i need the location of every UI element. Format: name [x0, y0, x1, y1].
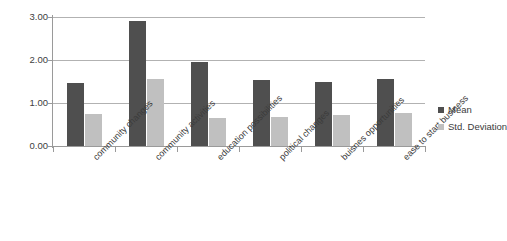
bar-group	[377, 17, 412, 146]
gridline-3.00	[53, 17, 425, 18]
x-tick-mark	[239, 147, 240, 152]
bar-std-deviation[interactable]	[85, 114, 102, 146]
gridline-2.00	[53, 60, 425, 61]
x-tick-mark	[301, 147, 302, 152]
y-tick-label-2.00: 2.00	[4, 55, 48, 65]
legend-label-std-deviation: Std. Deviation	[448, 121, 507, 132]
y-tick-mark-1.00	[48, 103, 53, 104]
chart-legend: Mean Std. Deviation	[438, 101, 485, 135]
bar-group	[67, 17, 102, 146]
bar-group	[129, 17, 164, 146]
x-tick-mark	[363, 147, 364, 152]
bar-group	[315, 17, 350, 146]
legend-label-mean: Mean	[448, 104, 472, 115]
y-tick-label-0.00: 0.00	[4, 141, 48, 151]
y-tick-mark-3.00	[48, 17, 53, 18]
bar-std-deviation[interactable]	[395, 113, 412, 146]
y-tick-mark-2.00	[48, 60, 53, 61]
x-tick-mark	[425, 147, 426, 152]
y-axis-line	[52, 15, 53, 148]
legend-swatch-mean-icon	[438, 107, 444, 113]
y-tick-label-3.00: 3.00	[4, 12, 48, 22]
x-tick-mark	[115, 147, 116, 152]
bar-group	[191, 17, 226, 146]
x-tick-mark	[177, 147, 178, 152]
bar-std-deviation[interactable]	[271, 117, 288, 146]
legend-item-mean[interactable]: Mean	[438, 101, 485, 118]
y-axis-labels: 0.001.002.003.00	[0, 0, 48, 241]
y-tick-label-1.00: 1.00	[4, 98, 48, 108]
bar-group	[253, 17, 288, 146]
bar-std-deviation[interactable]	[147, 79, 164, 146]
bar-mean[interactable]	[67, 83, 84, 146]
legend-swatch-std-deviation-icon	[438, 124, 444, 130]
bar-std-deviation[interactable]	[333, 115, 350, 146]
x-tick-mark	[53, 147, 54, 152]
legend-item-std-deviation[interactable]: Std. Deviation	[438, 118, 485, 135]
bar-std-deviation[interactable]	[209, 118, 226, 146]
gridline-1.00	[53, 103, 425, 104]
